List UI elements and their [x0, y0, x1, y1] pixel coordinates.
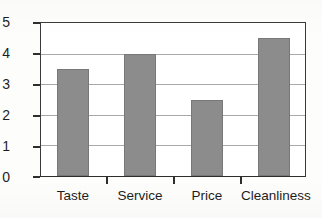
bar-cleanliness [258, 38, 290, 176]
bar-chart: 5 4 3 2 1 0 Taste Service Price Cleanlin… [0, 0, 322, 218]
y-axis-tick-mark [33, 84, 40, 86]
plot-area [40, 22, 306, 177]
y-axis-tick-mark [33, 115, 40, 117]
y-axis-tick-mark [33, 53, 40, 55]
x-axis-label-price: Price [174, 189, 240, 203]
x-axis-label-taste: Taste [40, 189, 106, 203]
y-axis-tick-label: 4 [0, 46, 10, 60]
y-axis-tick-label: 0 [0, 170, 10, 184]
bar-taste [57, 69, 89, 176]
y-axis-tick-mark [33, 22, 40, 24]
y-axis-tick-mark [33, 176, 40, 178]
y-axis-tick-label: 1 [0, 139, 10, 153]
bar-service [124, 54, 156, 176]
bar-price [191, 100, 223, 177]
x-axis-label-service: Service [107, 189, 173, 203]
y-axis-tick-label: 5 [0, 15, 10, 29]
y-axis-tick-label: 2 [0, 108, 10, 122]
y-axis-tick-label: 3 [0, 77, 10, 91]
y-axis-tick-mark [33, 146, 40, 148]
x-axis-tick-mark [173, 177, 175, 184]
x-axis-tick-mark [106, 177, 108, 184]
x-axis-tick-mark [240, 177, 242, 184]
x-axis-label-cleanliness: Cleanliness [241, 189, 307, 203]
